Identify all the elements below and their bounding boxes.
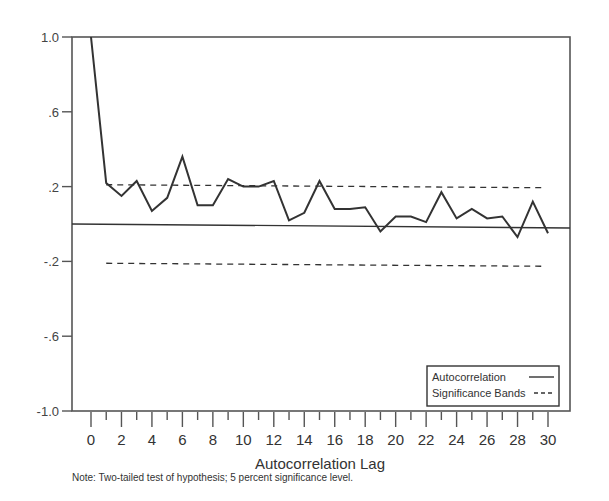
x-axis: 024681012141618202224262830	[87, 412, 557, 448]
x-tick-label: 4	[148, 431, 156, 448]
x-tick-label: 10	[235, 431, 252, 448]
y-tick-label: -.2	[44, 254, 59, 269]
legend-label: Significance Bands	[432, 387, 526, 399]
footnote: Note: Two-tailed test of hypothesis; 5 p…	[72, 472, 353, 483]
y-tick-label: .6	[48, 105, 59, 120]
x-tick-label: 16	[326, 431, 343, 448]
x-tick-label: 20	[387, 431, 404, 448]
autocorrelation-line	[91, 37, 548, 237]
x-tick-label: 26	[479, 431, 496, 448]
x-tick-label: 2	[117, 431, 125, 448]
y-tick-label: -.6	[44, 329, 59, 344]
y-tick-label: 1.0	[41, 30, 59, 45]
legend: AutocorrelationSignificance Bands	[427, 366, 559, 406]
x-tick-label: 0	[87, 431, 95, 448]
autocorrelation-series	[91, 37, 548, 237]
x-tick-label: 12	[265, 431, 282, 448]
acf-chart: 1.0.6.2-.2-.6-1.0 0246810121416182022242…	[0, 0, 609, 501]
legend-label: Autocorrelation	[432, 371, 506, 383]
x-tick-label: 30	[540, 431, 557, 448]
y-axis: 1.0.6.2-.2-.6-1.0	[37, 30, 72, 419]
x-axis-title: Autocorrelation Lag	[255, 455, 385, 472]
zero-line	[72, 224, 570, 228]
x-tick-label: 14	[296, 431, 313, 448]
zero-reference-line	[72, 224, 570, 228]
x-tick-label: 18	[357, 431, 374, 448]
x-tick-label: 22	[418, 431, 435, 448]
x-tick-label: 24	[448, 431, 465, 448]
y-tick-label: -1.0	[37, 404, 59, 419]
x-tick-label: 6	[178, 431, 186, 448]
x-tick-label: 28	[509, 431, 526, 448]
y-tick-label: .2	[48, 180, 59, 195]
x-tick-label: 8	[209, 431, 217, 448]
lower-band	[106, 263, 542, 266]
